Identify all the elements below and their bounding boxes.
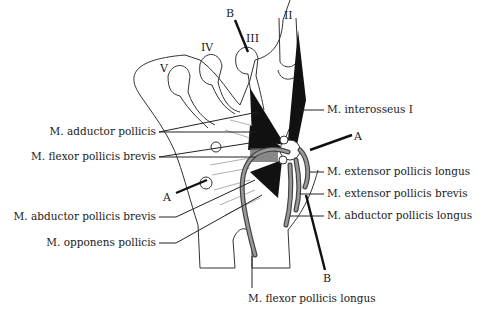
label-flexor-pollicis-brevis: M. flexor pollicis brevis <box>31 150 156 162</box>
label-interosseus-i: M. interosseus I <box>327 103 413 115</box>
axis-label-b: B <box>323 272 331 285</box>
axis-a <box>310 135 352 150</box>
abductor-brevis-fan <box>250 160 282 198</box>
interosseus-fan <box>288 30 306 150</box>
axis-b <box>306 195 325 270</box>
hand-muscle-diagram: V IV III II A A B B M. adductor pollicis… <box>0 0 485 317</box>
label-opponens-pollicis: M. opponens pollicis <box>46 236 156 248</box>
digit-label: V <box>159 62 169 75</box>
label-extensor-pollicis-longus: M. extensor pollicis longus <box>327 165 470 177</box>
digit-label: III <box>246 32 259 45</box>
axis-label-b: B <box>226 7 234 20</box>
digit-label: IV <box>201 41 214 54</box>
label-abductor-pollicis-longus: M. abductor pollicis longus <box>327 209 472 221</box>
digit-label: II <box>284 9 293 22</box>
axis-label-a: A <box>162 191 172 204</box>
label-flexor-pollicis-longus: M. flexor pollicis longus <box>248 292 376 304</box>
label-abductor-pollicis-brevis: M. abductor pollicis brevis <box>14 210 156 222</box>
label-adductor-pollicis: M. adductor pollicis <box>50 125 156 137</box>
axis-label-a: A <box>353 130 363 143</box>
label-extensor-pollicis-brevis: M. extensor pollicis brevis <box>327 187 468 199</box>
